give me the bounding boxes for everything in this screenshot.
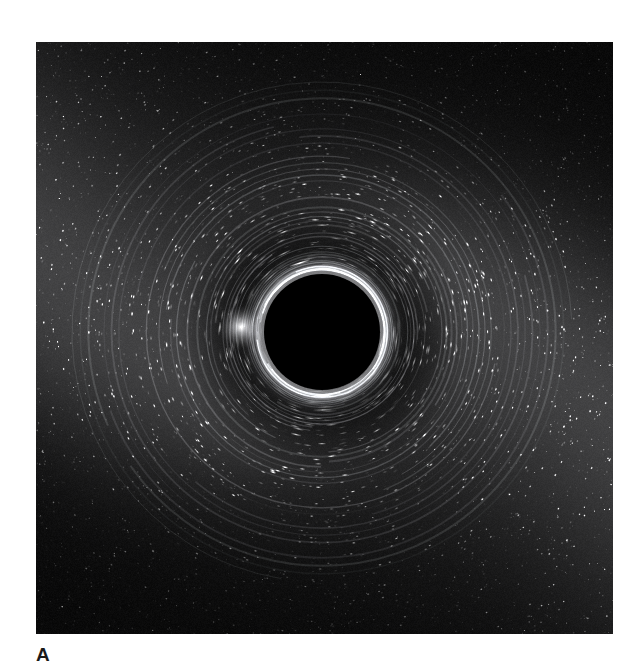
black-hole-image-panel <box>36 42 613 634</box>
panel-label-a: A <box>36 644 50 666</box>
figure-panel-a: A <box>0 0 643 668</box>
black-hole-lensing-render <box>36 42 613 634</box>
